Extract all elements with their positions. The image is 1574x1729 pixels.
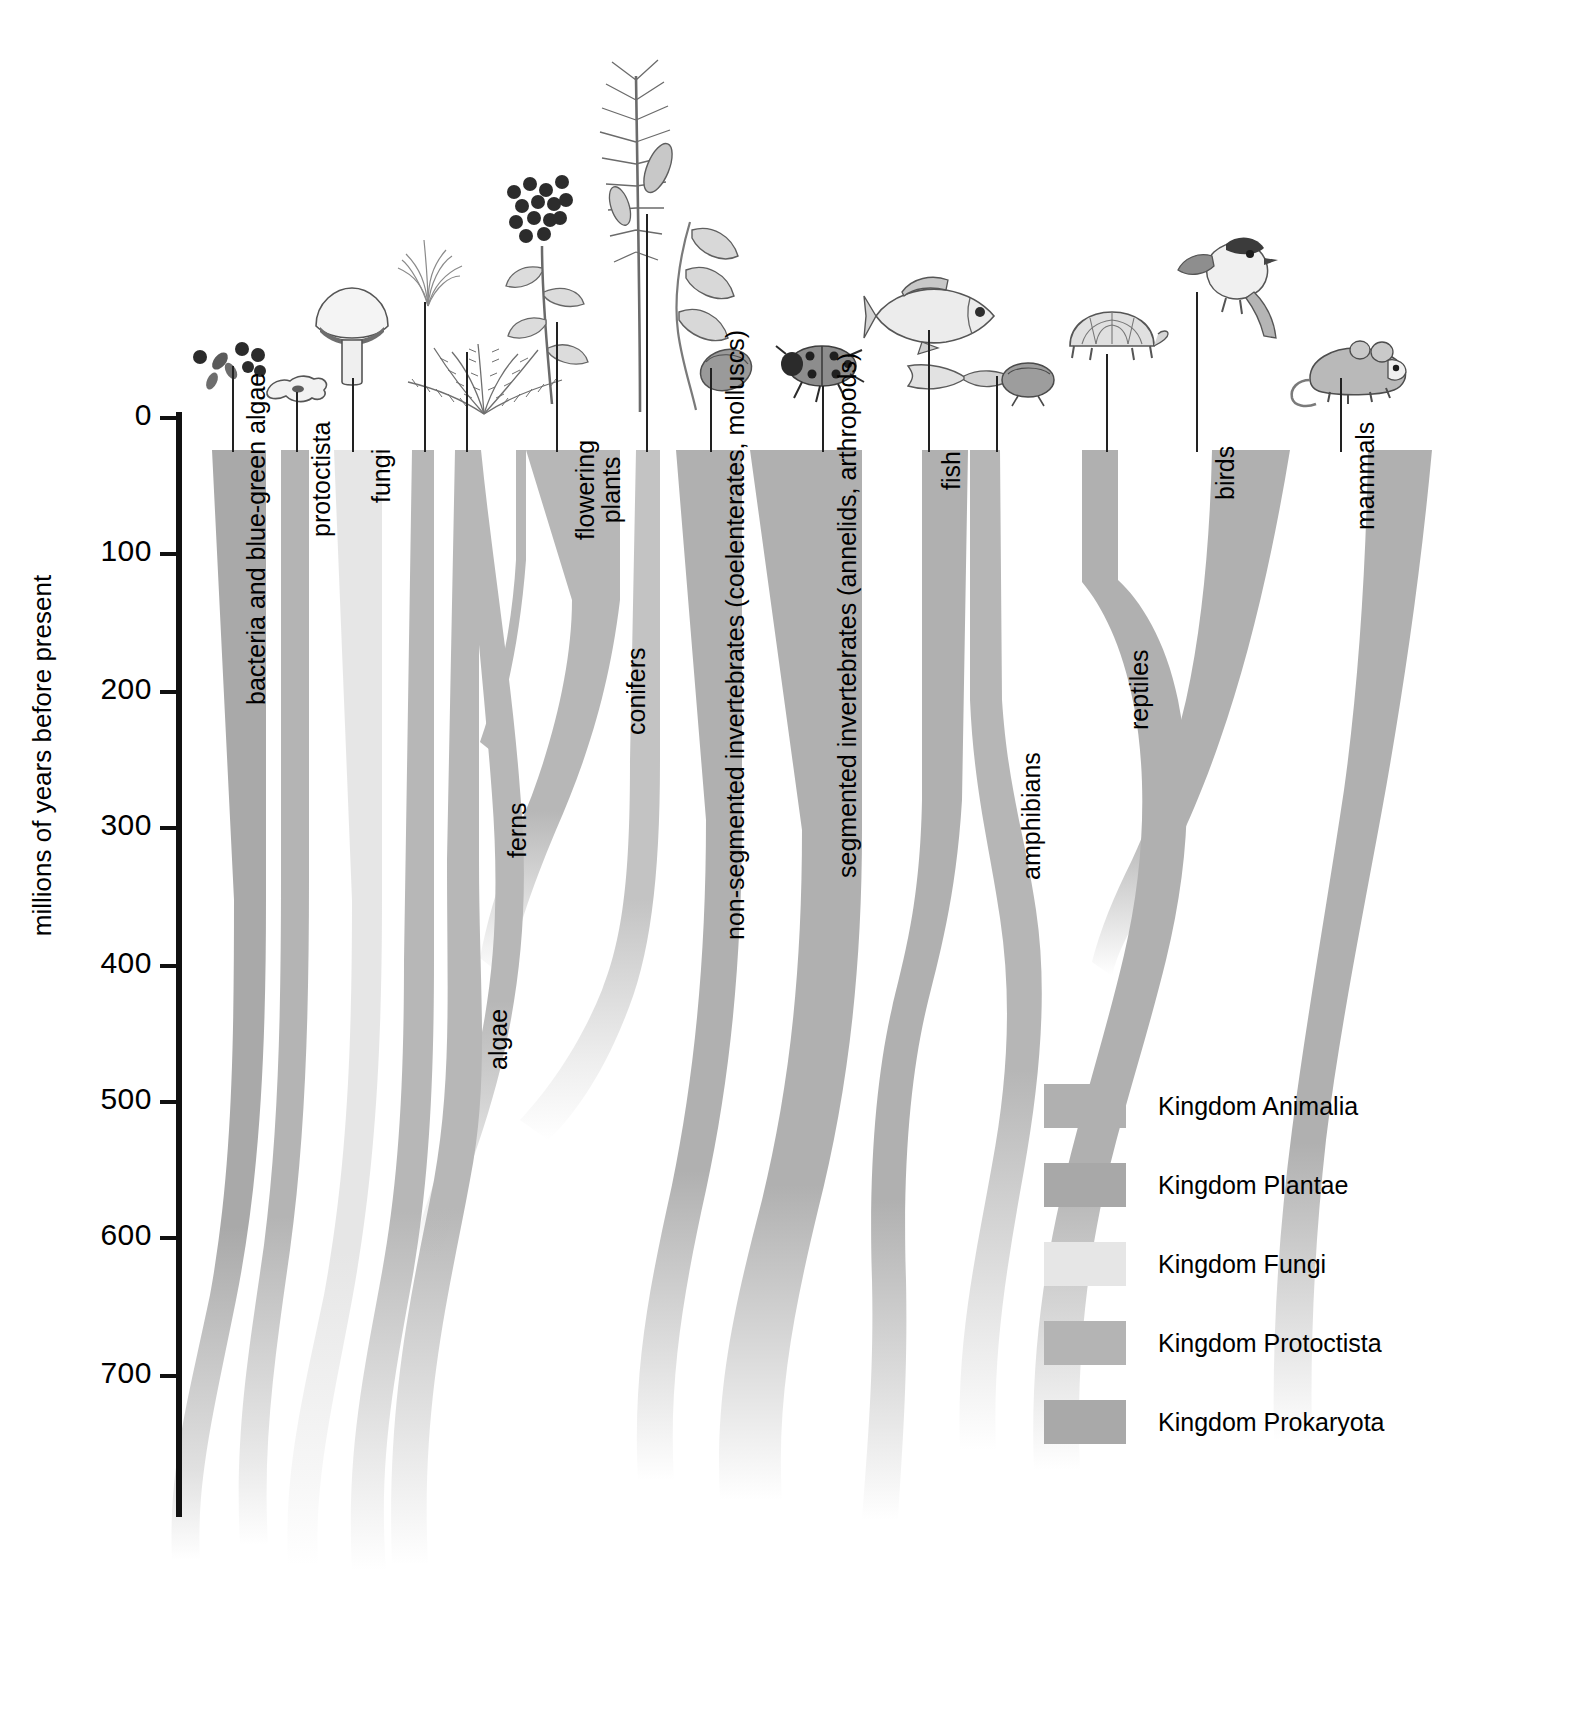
legend: Kingdom Animalia Kingdom Plantae Kingdom… [1044,1084,1374,1479]
legend-swatch-fungi [1044,1242,1126,1286]
legend-swatch-plantae [1044,1163,1126,1207]
legend-item-protoctista: Kingdom Protoctista [1044,1321,1374,1365]
legend-item-fungi: Kingdom Fungi [1044,1242,1374,1286]
evolutionary-tree-diagram: bacteria and blue-green algae protoctist… [0,0,1574,1729]
axis-tick-500 [160,1100,178,1104]
legend-label-prokaryota: Kingdom Prokaryota [1158,1408,1385,1437]
y-axis-title: millions of years before present [27,546,58,966]
axis-tick-400 [160,964,178,968]
axis-tick-100 [160,552,178,556]
axis-tick-label-100: 100 [0,534,152,568]
legend-item-animalia: Kingdom Animalia [1044,1084,1374,1128]
axis-tick-label-0: 0 [0,398,152,432]
axis-tick-label-500: 500 [0,1082,152,1116]
axis-tick-0 [160,416,178,420]
axis-tick-300 [160,826,178,830]
axis-tick-700 [160,1374,178,1378]
legend-label-protoctista: Kingdom Protoctista [1158,1329,1382,1358]
legend-swatch-protoctista [1044,1321,1126,1365]
legend-label-fungi: Kingdom Fungi [1158,1250,1326,1279]
legend-swatch-animalia [1044,1084,1126,1128]
axis-tick-label-300: 300 [0,808,152,842]
axis-tick-600 [160,1236,178,1240]
legend-item-plantae: Kingdom Plantae [1044,1163,1374,1207]
legend-label-animalia: Kingdom Animalia [1158,1092,1358,1121]
axis-tick-label-400: 400 [0,946,152,980]
legend-swatch-prokaryota [1044,1400,1126,1444]
legend-item-prokaryota: Kingdom Prokaryota [1044,1400,1374,1444]
axis-tick-label-700: 700 [0,1356,152,1390]
axis-tick-200 [160,690,178,694]
legend-label-plantae: Kingdom Plantae [1158,1171,1348,1200]
axis-tick-label-600: 600 [0,1218,152,1252]
axis-tick-label-200: 200 [0,672,152,706]
